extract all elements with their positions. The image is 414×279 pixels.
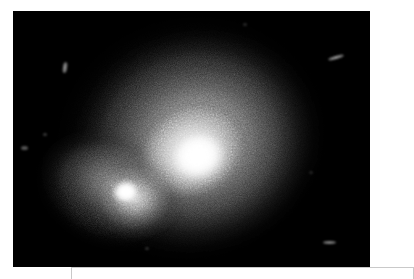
point-source-upper-mid-icon: [243, 23, 247, 26]
page-margin-right: [370, 0, 414, 267]
caption-frame: [71, 267, 414, 279]
page-margin-left: [0, 0, 13, 267]
point-source-right-mid-icon: [309, 171, 313, 174]
point-source-left-upper-icon: [43, 133, 47, 136]
figure-page: [0, 0, 414, 279]
caption-text: [72, 268, 413, 270]
streak-upper-left-icon: [62, 62, 67, 73]
streak-upper-right-icon: [328, 54, 344, 61]
page-margin-top: [0, 0, 414, 11]
xray-image-plate: [13, 11, 370, 267]
point-source-left-icon: [21, 146, 28, 150]
streak-lower-right-icon: [323, 241, 336, 244]
point-source-lower-mid-icon: [145, 247, 149, 250]
secondary-compact-source: [111, 179, 141, 205]
